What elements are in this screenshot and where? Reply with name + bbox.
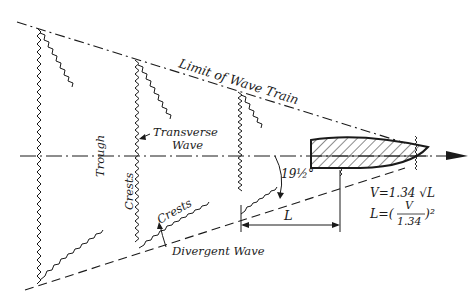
divergent-crest-upper-2 <box>138 65 171 119</box>
length-formula-suffix: )² <box>424 206 435 221</box>
direction-arrow-icon <box>446 151 468 160</box>
lower-limit-line <box>25 168 405 290</box>
hull <box>311 137 428 168</box>
transverse-pointer-arrow-icon <box>139 134 146 140</box>
divergent-crest-upper-1 <box>40 33 73 87</box>
transverse-label-line1: Transverse <box>153 125 218 139</box>
length-formula-denominator: 1.34 <box>397 215 422 228</box>
length-label: L <box>283 208 293 223</box>
angle-arrow-icon <box>277 192 284 199</box>
transverse-wave-2 <box>135 60 139 242</box>
trough-label: Trough <box>93 135 107 177</box>
length-arrow-right-icon <box>332 222 340 228</box>
divergent-crest-lower-3 <box>241 187 277 214</box>
wave-train-diagram: Limit of Wave Train Transverse Wave Trou… <box>0 0 475 307</box>
divergent-crest-upper-3 <box>241 95 262 128</box>
transverse-label-line2: Wave <box>172 138 203 152</box>
divergent-crest-lower-1 <box>40 230 103 280</box>
transverse-wave-3 <box>238 92 242 191</box>
limit-of-wave-train-label: Limit of Wave Train <box>176 55 300 107</box>
divergent-wave-label: Divergent Wave <box>171 244 265 258</box>
crests-vertical-label: Crests <box>122 172 136 210</box>
speed-formula: V=1.34 √L <box>370 186 435 200</box>
length-arrow-left-icon <box>241 222 249 228</box>
length-formula-prefix: L=( <box>369 206 395 221</box>
length-formula-numerator: V <box>405 199 414 212</box>
angle-label: 19½° <box>281 167 314 181</box>
